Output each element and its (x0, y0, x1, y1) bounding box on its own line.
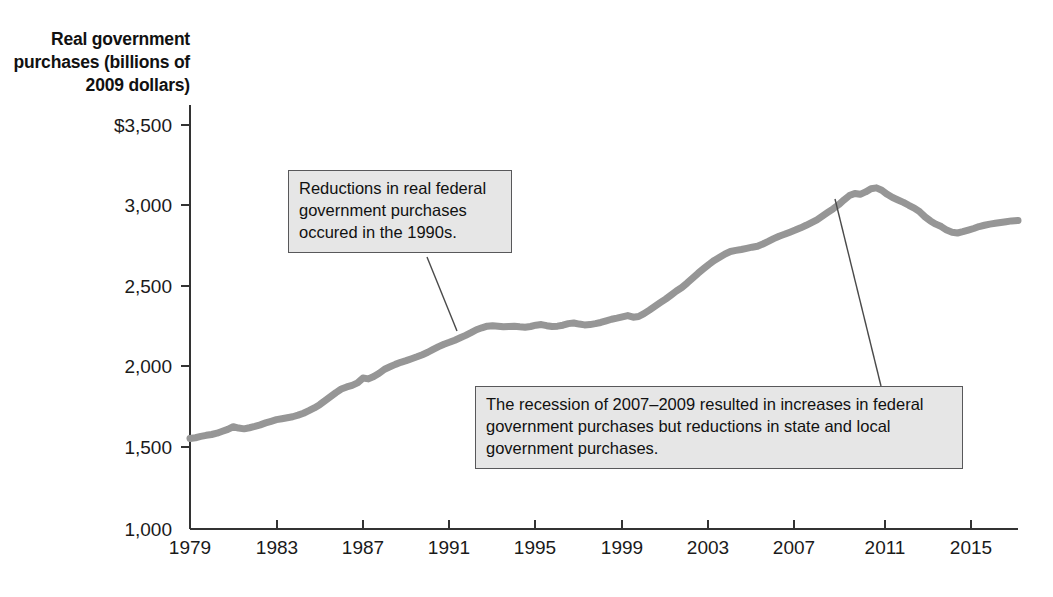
x-tick-label: 2007 (773, 537, 815, 558)
x-tick-label: 2011 (865, 537, 906, 558)
y-tick-label: 2,000 (124, 356, 172, 377)
x-tick-label: 2003 (687, 537, 729, 558)
x-axis-ticks (277, 520, 971, 529)
y-tick-label: 1,000 (124, 519, 172, 540)
chart-container: Real government purchases (billions of 2… (0, 0, 1053, 597)
annotation-1990s-reductions: Reductions in real federal government pu… (288, 170, 512, 253)
x-tick-label: 1999 (601, 537, 643, 558)
x-tick-label: 1991 (428, 537, 470, 558)
x-tick-label: 2015 (950, 537, 992, 558)
x-axis-tick-labels: 1979 1983 1987 1991 1995 1999 2003 2007 … (169, 537, 992, 558)
x-tick-label: 1995 (514, 537, 556, 558)
x-tick-label: 1983 (256, 537, 298, 558)
chart-plot-area: $3,500 3,000 2,500 2,000 1,500 1,000 197… (0, 0, 1053, 597)
y-tick-label: $3,500 (114, 115, 172, 136)
x-tick-label: 1979 (169, 537, 211, 558)
x-tick-label: 1987 (342, 537, 384, 558)
annotation-recession-2007-2009: The recession of 2007–2009 resulted in i… (475, 386, 963, 469)
y-tick-label: 3,000 (124, 195, 172, 216)
y-tick-label: 2,500 (124, 276, 172, 297)
leader-line (427, 257, 457, 331)
y-axis-ticks (181, 125, 190, 447)
y-axis-tick-labels: $3,500 3,000 2,500 2,000 1,500 1,000 (114, 115, 172, 540)
leader-line (835, 199, 881, 386)
y-tick-label: 1,500 (124, 437, 172, 458)
